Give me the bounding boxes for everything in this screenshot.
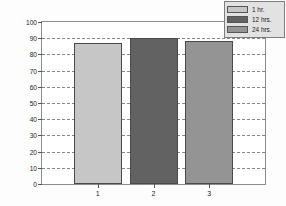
y-axis-tick (38, 54, 42, 55)
legend-item-label: 12 hrs. (252, 15, 272, 24)
y-axis-tick-label: 90 (30, 35, 37, 42)
y-axis-tick-label: 100 (26, 19, 37, 26)
y-axis-tick-label: 40 (30, 116, 37, 123)
bar-chart-figure: Effectiveness Percentage 010203040506070… (0, 0, 286, 206)
y-axis-tick-label: 30 (30, 132, 37, 139)
y-axis-tick-label: 10 (30, 164, 37, 171)
bar-3 (185, 41, 233, 184)
bar-2 (130, 38, 178, 184)
legend-item: 12 hrs. (227, 15, 281, 24)
x-axis-tick-label: 2 (152, 190, 156, 197)
y-axis-tick-label: 20 (30, 148, 37, 155)
y-axis-tick (38, 103, 42, 104)
legend-item-label: 1 hr. (252, 5, 264, 14)
x-axis-tick (209, 184, 210, 188)
y-axis-tick (38, 22, 42, 23)
plot-area: 0102030405060708090100123 (41, 21, 266, 185)
y-axis-tick (38, 152, 42, 153)
y-axis-tick (38, 38, 42, 39)
plot-inner (42, 22, 265, 184)
legend-item: 1 hr. (227, 5, 281, 14)
y-axis-tick (38, 135, 42, 136)
x-axis-tick (154, 184, 155, 188)
x-axis-tick-label: 3 (207, 190, 211, 197)
y-axis-tick (38, 119, 42, 120)
y-axis-tick-label: 60 (30, 83, 37, 90)
legend-swatch-icon (227, 26, 248, 33)
y-axis-tick-label: 70 (30, 67, 37, 74)
legend-item: 24 hrs. (227, 25, 281, 34)
y-axis-tick-label: 50 (30, 100, 37, 107)
legend-item-label: 24 hrs. (252, 25, 272, 34)
y-axis-tick (38, 87, 42, 88)
bar-1 (74, 43, 122, 184)
x-axis-tick (98, 184, 99, 188)
y-axis-tick (38, 184, 42, 185)
legend-swatch-icon (227, 16, 248, 23)
y-axis-tick (38, 71, 42, 72)
chart-legend: 1 hr.12 hrs.24 hrs. (224, 1, 285, 38)
y-axis-tick-label: 0 (33, 181, 37, 188)
y-axis-tick-label: 80 (30, 51, 37, 58)
legend-swatch-icon (227, 6, 248, 13)
y-axis-tick (38, 168, 42, 169)
x-axis-tick-label: 1 (96, 190, 100, 197)
